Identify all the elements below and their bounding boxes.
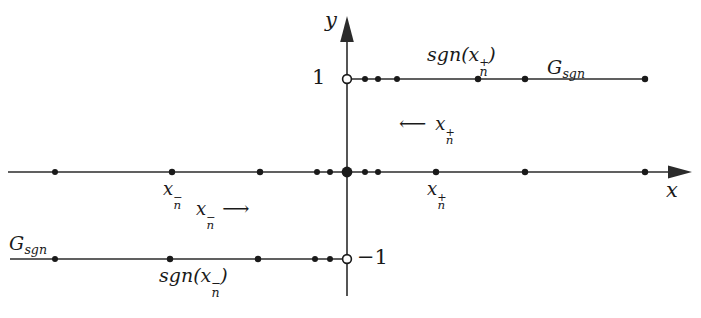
x-axis-label: x: [666, 180, 678, 201]
x-n-plus-subscript: n: [437, 200, 445, 212]
x-axis-right-point: [642, 169, 648, 175]
x-axis-left-point: [257, 169, 263, 175]
flow-annotation-positive: ⟵x+n: [399, 114, 445, 133]
x-axis-left-point: [327, 169, 333, 175]
flow-positive-base: x: [435, 113, 445, 134]
lower-branch-point: [312, 256, 318, 262]
lower-branch-point: [327, 256, 333, 262]
upper-branch-open-endpoint: [343, 75, 352, 84]
sgn-positive-subscript: n: [480, 66, 488, 79]
diagram-canvas: [0, 0, 701, 318]
upper-branch-point: [375, 76, 381, 82]
sign-function-graph-figure: y x 1 −1 sgn(x+n) sgn(x−n) Gsgn Gsgn x−n…: [0, 0, 701, 318]
upper-branch-point: [642, 76, 648, 82]
x-axis-right-point: [522, 169, 528, 175]
flow-negative-base: x: [196, 198, 206, 219]
graph-label-lower-base: G: [9, 232, 24, 254]
x-n-minus-label: x−n: [163, 180, 173, 198]
x-n-minus-base: x: [163, 178, 173, 199]
x-axis-arrowhead-icon: [668, 166, 692, 179]
x-n-plus-base: x: [427, 178, 437, 199]
lower-branch-point: [167, 256, 173, 262]
y-tick-label-minus-one: −1: [357, 247, 388, 268]
upper-branch-point: [522, 76, 528, 82]
x-axis-left-point: [52, 169, 58, 175]
graph-label-lower: Gsgn: [9, 234, 47, 256]
sgn-negative-base: sgn(x: [159, 264, 211, 286]
sgn-negative-label: sgn(x−n): [159, 266, 228, 285]
y-tick-label-one: 1: [312, 67, 325, 88]
lower-branch-point: [52, 256, 58, 262]
x-n-plus-label: x+n: [427, 180, 437, 198]
sgn-negative-tail: ): [220, 264, 227, 286]
right-arrow-icon: ⟶: [222, 197, 249, 219]
sgn-negative-subscript: n: [212, 287, 220, 300]
flow-negative-subscript: n: [206, 220, 214, 232]
x-axis-left-point: [314, 169, 320, 175]
x-axis-right-point: [375, 169, 381, 175]
x-n-minus-subscript: n: [173, 200, 181, 212]
y-axis-arrowhead-icon: [340, 16, 354, 42]
lower-branch-point: [255, 256, 261, 262]
flow-annotation-negative: x−n⟶: [196, 199, 249, 218]
y-axis-label: y: [325, 10, 337, 31]
flow-positive-subscript: n: [446, 135, 454, 147]
sgn-positive-base: sgn(x: [427, 43, 479, 65]
graph-label-lower-subscript: sgn: [24, 242, 47, 257]
upper-branch-point: [362, 76, 368, 82]
graph-label-upper: Gsgn: [547, 58, 585, 80]
x-axis-right-point: [362, 169, 368, 175]
upper-branch-point: [394, 76, 400, 82]
lower-branch-open-endpoint: [343, 255, 352, 264]
sgn-positive-label: sgn(x+n): [427, 45, 496, 64]
graph-label-upper-subscript: sgn: [562, 66, 585, 81]
sgn-positive-tail: ): [488, 43, 495, 65]
x-axis-left-point: [169, 169, 175, 175]
left-arrow-icon: ⟵: [399, 112, 426, 134]
origin-dot: [342, 167, 353, 178]
x-axis-right-point: [433, 169, 439, 175]
graph-label-upper-base: G: [547, 56, 562, 78]
